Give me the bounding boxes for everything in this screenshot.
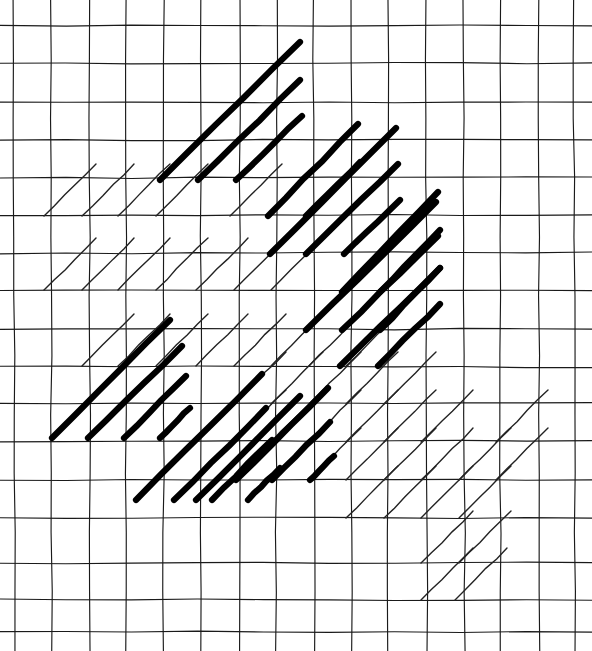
hatch-grid-figure — [0, 0, 592, 651]
figure-canvas — [0, 0, 592, 651]
